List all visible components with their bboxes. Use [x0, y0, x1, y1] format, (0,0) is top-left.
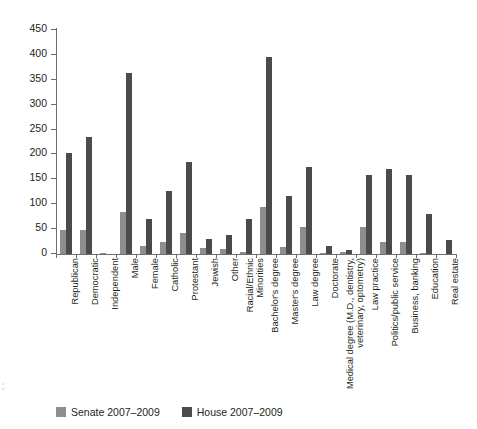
- bar-house: [246, 219, 252, 254]
- x-axis-category-label-line: Minorities: [255, 258, 265, 312]
- y-axis-tick-label: 200: [29, 146, 47, 159]
- x-axis-category-label-line: Independent: [110, 258, 120, 310]
- bar-group: [76, 30, 96, 254]
- x-axis-category-label: Democratic: [90, 258, 100, 305]
- bar-senate: [280, 247, 286, 254]
- bar-house: [66, 153, 72, 254]
- x-axis-category-label: Bachelor's degree: [270, 258, 280, 333]
- x-axis-category-label: Education: [430, 258, 440, 299]
- margin-note-line2: e: [2, 386, 14, 391]
- bar-house: [126, 73, 132, 254]
- x-axis-category-label: Republican: [70, 258, 80, 305]
- bar-house: [326, 246, 332, 254]
- x-axis-category-label: Other: [230, 258, 240, 281]
- x-axis-category-label-line: Law degree: [310, 258, 320, 307]
- bar-senate: [220, 249, 226, 254]
- y-axis-tick-label: 450: [29, 22, 47, 35]
- x-axis-category-label: Jewish: [210, 258, 220, 286]
- y-axis-tick-label: 350: [29, 72, 47, 85]
- bar-house: [146, 219, 152, 254]
- bar-group: [356, 30, 376, 254]
- bar-group: [136, 30, 156, 254]
- bar-house: [286, 196, 292, 254]
- bar-house: [86, 137, 92, 254]
- margin-note: s e: [2, 381, 14, 391]
- x-axis-category-label-line: Racial/Ethnic: [245, 258, 255, 312]
- x-axis-category-label-line: Male: [130, 258, 140, 278]
- x-axis-category-label-line: Politics/public service: [390, 258, 400, 346]
- bar-house: [406, 175, 412, 254]
- bar-senate: [200, 248, 206, 254]
- x-axis-category-label-line: Medical degree (M.D., dentistry,: [345, 258, 355, 389]
- bar-group: [56, 30, 76, 254]
- x-axis-category-label: Medical degree (M.D., dentistry,veterina…: [345, 258, 366, 389]
- legend-swatch-senate-icon: [56, 407, 66, 417]
- x-axis-category-label: Racial/EthnicMinorities: [245, 258, 266, 312]
- bar-group: [236, 30, 256, 254]
- bar-senate: [100, 253, 106, 254]
- bar-house: [206, 239, 212, 254]
- legend-item-house: House 2007–2009: [182, 406, 283, 418]
- y-axis-tick-label: 100: [29, 196, 47, 209]
- bar-senate: [380, 242, 386, 254]
- bar-senate: [300, 227, 306, 254]
- bar-group: [216, 30, 236, 254]
- x-axis-category-label: Master's degree: [290, 258, 300, 324]
- bar-group: [416, 30, 436, 254]
- bar-senate: [140, 246, 146, 254]
- x-axis-category-label: Business, banking: [410, 258, 420, 333]
- bar-senate: [340, 252, 346, 254]
- bar-group: [296, 30, 316, 254]
- bar-senate: [80, 230, 86, 254]
- bar-house: [266, 57, 272, 254]
- y-axis-tick-label: 400: [29, 47, 47, 60]
- bar-house: [186, 162, 192, 254]
- bar-group: [176, 30, 196, 254]
- x-axis-category-label-line: Female: [150, 258, 160, 289]
- y-axis-tick-label: 250: [29, 122, 47, 135]
- bar-senate: [60, 230, 66, 254]
- legend-label-senate: Senate 2007–2009: [71, 406, 160, 418]
- x-axis-category-label: Independent: [110, 258, 120, 310]
- x-axis-category-label: Female: [150, 258, 160, 289]
- bar-chart-figure: 050100150200250300350400450 RepublicanDe…: [0, 0, 477, 429]
- x-axis-category-label: Law degree: [310, 258, 320, 307]
- x-axis-category-label-line: Doctorate: [330, 258, 340, 298]
- bar-house: [166, 191, 172, 254]
- x-axis-category-labels: RepublicanDemocraticIndependentMaleFemal…: [56, 258, 456, 388]
- bar-house: [366, 175, 372, 254]
- legend-swatch-house-icon: [182, 407, 192, 417]
- x-axis-category-label: Real estate: [450, 258, 460, 305]
- bar-senate: [180, 233, 186, 254]
- bar-house: [386, 169, 392, 254]
- x-axis-category-label: Catholic: [170, 258, 180, 292]
- bar-group: [276, 30, 296, 254]
- bar-house: [426, 214, 432, 254]
- bar-group: [376, 30, 396, 254]
- y-axis-tick-label: 300: [29, 97, 47, 110]
- bar-house: [346, 250, 352, 254]
- bar-group: [316, 30, 336, 254]
- bar-senate: [240, 252, 246, 254]
- x-axis-category-label-line: Jewish: [210, 258, 220, 286]
- bar-group: [196, 30, 216, 254]
- y-axis-tick-label: 150: [29, 171, 47, 184]
- bar-senate: [160, 242, 166, 254]
- x-axis-category-label-line: Other: [230, 258, 240, 281]
- x-axis-category-label-line: Business, banking: [410, 258, 420, 333]
- bar-senate: [400, 242, 406, 254]
- x-axis-category-label: Male: [130, 258, 140, 278]
- x-axis-category-label-line: Bachelor's degree: [270, 258, 280, 333]
- x-axis-category-label-line: Education: [430, 258, 440, 299]
- plot-area: 050100150200250300350400450: [56, 30, 456, 254]
- y-axis-tick-label: 50: [35, 221, 47, 234]
- bar-group: [156, 30, 176, 254]
- x-axis-category-label: Politics/public service: [390, 258, 400, 346]
- bar-senate: [320, 253, 326, 254]
- x-axis-category-label-line: Real estate: [450, 258, 460, 305]
- bar-senate: [420, 253, 426, 254]
- bar-house: [226, 235, 232, 254]
- x-axis-category-label-line: veterinary, optometry): [355, 258, 365, 389]
- x-axis-category-label: Protestant: [190, 258, 200, 300]
- bar-group: [256, 30, 276, 254]
